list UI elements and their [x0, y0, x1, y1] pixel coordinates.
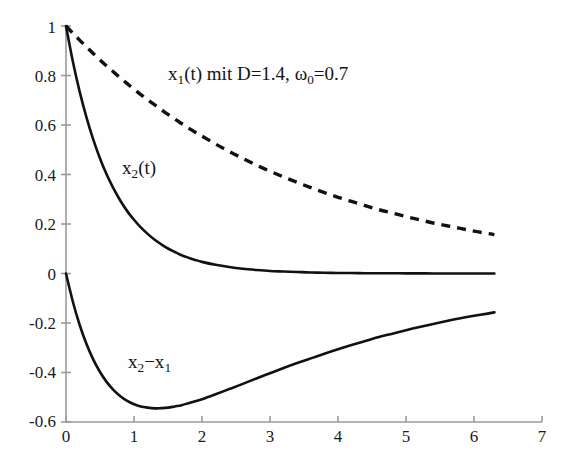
- xtick-label-4: 4: [324, 428, 352, 445]
- ytick-label-1: 1: [26, 19, 56, 36]
- xtick-label-2: 2: [188, 428, 216, 445]
- label-diff-base: x: [128, 351, 138, 372]
- annotation-x1-parameters: x1(t) mit D=1.4, ω0=0.7: [168, 64, 348, 83]
- xtick-label-7: 7: [528, 428, 556, 445]
- annotation-x-base: x: [168, 63, 178, 84]
- ytick-label-neg-0-6: -0.6: [8, 413, 56, 430]
- curve-x1: [66, 26, 494, 235]
- annotation-middle-text: (t) mit D=1.4,: [184, 63, 294, 84]
- ytick-label-0: 0: [26, 266, 56, 283]
- label-x2-subscript: 2: [132, 166, 139, 181]
- xtick-label-6: 6: [460, 428, 488, 445]
- ytick-label-0-8: 0.8: [16, 68, 56, 85]
- ytick-label-0-6: 0.6: [16, 117, 56, 134]
- annotation-tail-text: =0.7: [314, 63, 348, 84]
- label-x2-base: x: [122, 157, 132, 178]
- label-x2: x2(t): [122, 158, 156, 177]
- label-diff-subscript-1: 1: [164, 360, 171, 375]
- label-x2-minus-x1: x2−x1: [128, 352, 171, 371]
- label-x2-tail: (t): [138, 157, 156, 178]
- omega-symbol: ω: [295, 63, 308, 84]
- annotation-x-subscript: 1: [178, 72, 185, 87]
- x-axis-ticks: [66, 416, 542, 422]
- xtick-label-0: 0: [52, 428, 80, 445]
- xtick-label-1: 1: [120, 428, 148, 445]
- label-diff-tail: −x: [144, 351, 164, 372]
- ytick-label-neg-0-2: -0.2: [8, 315, 56, 332]
- chart-figure: 1 0.8 0.6 0.4 0.2 0 -0.2 -0.4 -0.6 0 1 2…: [0, 0, 573, 460]
- xtick-label-3: 3: [256, 428, 284, 445]
- label-diff-subscript-2: 2: [138, 360, 145, 375]
- xtick-label-5: 5: [392, 428, 420, 445]
- ytick-label-0-2: 0.2: [16, 216, 56, 233]
- ytick-label-0-4: 0.4: [16, 167, 56, 184]
- curve-x2-minus-x1: [66, 274, 494, 409]
- omega-subscript: 0: [307, 72, 314, 87]
- ytick-label-neg-0-4: -0.4: [8, 364, 56, 381]
